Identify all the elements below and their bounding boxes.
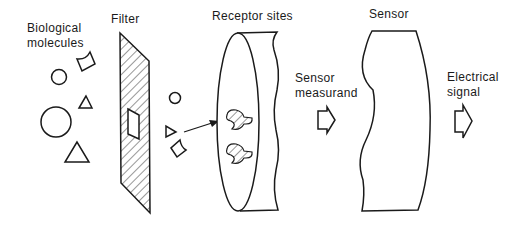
filtered-circle-molecule [170, 93, 181, 104]
label-sensor-measurand-line2: measurand [295, 86, 358, 100]
electrical-signal-arrow [455, 105, 472, 138]
biosensor-diagram: Biological molecules Filter Receptor sit… [0, 0, 524, 230]
sensor-measurand-arrow [318, 107, 335, 133]
label-electrical-signal-line2: signal [447, 85, 480, 99]
label-sensor-measurand-line1: Sensor [295, 71, 335, 85]
label-biological-molecules-line1: Biological [27, 21, 81, 35]
label-sensor: Sensor [369, 7, 409, 21]
filtered-cup-molecule [171, 140, 186, 157]
label-receptor-sites: Receptor sites [212, 9, 293, 23]
label-biological-molecules-line2: molecules [27, 36, 84, 50]
filter-pore [128, 109, 139, 139]
small-triangle-molecule [79, 96, 92, 108]
binding-arrow [184, 120, 219, 132]
input-molecules [41, 52, 95, 162]
filter [120, 33, 150, 213]
label-electrical-signal-line1: Electrical [447, 70, 499, 84]
filtered-triangle-molecule [166, 126, 176, 137]
sensor-body [360, 31, 430, 211]
large-circle-molecule [41, 107, 71, 137]
small-circle-molecule [52, 70, 67, 85]
large-triangle-molecule [65, 142, 89, 162]
filtered-molecules [166, 93, 186, 158]
cup-molecule [77, 52, 95, 71]
label-filter: Filter [111, 12, 139, 26]
